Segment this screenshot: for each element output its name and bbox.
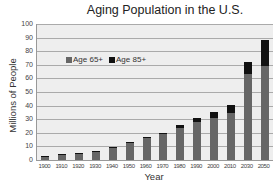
bar-2030 bbox=[244, 62, 252, 160]
bar-segment-age-65 bbox=[193, 122, 201, 160]
y-tick-label: 10 bbox=[0, 142, 33, 149]
bar-2010 bbox=[227, 105, 235, 160]
gridline bbox=[37, 133, 273, 134]
legend-swatch-icon bbox=[109, 57, 115, 63]
gridline bbox=[37, 65, 273, 66]
y-tick-label: 50 bbox=[0, 88, 33, 95]
y-tick-label: 20 bbox=[0, 129, 33, 136]
x-tick-label: 1920 bbox=[69, 163, 87, 169]
legend-item: Age 85+ bbox=[109, 55, 146, 64]
bar-segment-age-65 bbox=[210, 118, 218, 160]
gridline bbox=[37, 24, 273, 25]
gridline bbox=[37, 51, 273, 52]
legend-swatch-icon bbox=[66, 57, 72, 63]
bar-2050 bbox=[261, 40, 269, 160]
y-tick-label: 90 bbox=[0, 34, 33, 41]
x-tick-label: 1940 bbox=[103, 163, 121, 169]
gridline bbox=[37, 146, 273, 147]
bar-segment-age-85 bbox=[261, 40, 269, 66]
x-tick-label: 1980 bbox=[170, 163, 188, 169]
bar-segment-age-85 bbox=[210, 112, 218, 118]
bar-segment-age-85 bbox=[109, 147, 117, 148]
x-tick-label: 2000 bbox=[204, 163, 222, 169]
bar-segment-age-85 bbox=[176, 125, 184, 128]
bar-segment-age-65 bbox=[41, 156, 49, 160]
chart-title: Aging Population in the U.S. bbox=[60, 3, 270, 17]
gridline bbox=[37, 119, 273, 120]
legend-label: Age 65+ bbox=[73, 55, 103, 64]
legend-item: Age 65+ bbox=[66, 55, 103, 64]
bar-segment-age-65 bbox=[92, 151, 100, 160]
bar-segment-age-65 bbox=[227, 113, 235, 160]
bar-1930 bbox=[92, 151, 100, 160]
bar-1920 bbox=[75, 153, 83, 160]
bar-1900 bbox=[41, 156, 49, 160]
bar-1980 bbox=[176, 125, 184, 160]
bar-segment-age-65 bbox=[159, 134, 167, 160]
gridline bbox=[37, 38, 273, 39]
x-tick-label: 1950 bbox=[120, 163, 138, 169]
x-tick-label: 2050 bbox=[255, 163, 273, 169]
y-tick-label: 70 bbox=[0, 61, 33, 68]
bar-segment-age-85 bbox=[193, 118, 201, 122]
legend-label: Age 85+ bbox=[116, 55, 146, 64]
legend: Age 65+Age 85+ bbox=[66, 55, 146, 64]
x-tick-label: 1960 bbox=[137, 163, 155, 169]
plot-area bbox=[36, 24, 273, 161]
bar-segment-age-65 bbox=[58, 155, 66, 160]
bar-segment-age-85 bbox=[244, 62, 252, 74]
x-axis-label: Year bbox=[36, 171, 272, 182]
y-tick-label: 80 bbox=[0, 47, 33, 54]
x-tick-label: 2030 bbox=[238, 163, 256, 169]
bar-segment-age-85 bbox=[159, 133, 167, 135]
y-tick-label: 100 bbox=[0, 20, 33, 27]
bar-segment-age-85 bbox=[227, 105, 235, 112]
bar-1960 bbox=[143, 137, 151, 160]
y-tick-label: 30 bbox=[0, 115, 33, 122]
x-tick-label: 1930 bbox=[86, 163, 104, 169]
x-tick-label: 1900 bbox=[35, 163, 53, 169]
bar-1910 bbox=[58, 154, 66, 160]
bar-segment-age-65 bbox=[244, 74, 252, 160]
bar-segment-age-85 bbox=[143, 137, 151, 138]
bar-segment-age-65 bbox=[109, 148, 117, 160]
bar-1950 bbox=[126, 142, 134, 160]
bar-1940 bbox=[109, 147, 117, 160]
x-tick-label: 1910 bbox=[52, 163, 70, 169]
bar-segment-age-65 bbox=[176, 128, 184, 160]
bar-segment-age-65 bbox=[75, 153, 83, 160]
x-tick-label: 1990 bbox=[187, 163, 205, 169]
gridline bbox=[37, 106, 273, 107]
bar-2000 bbox=[210, 112, 218, 160]
y-tick-label: 0 bbox=[0, 156, 33, 163]
gridline bbox=[37, 78, 273, 79]
x-tick-label: 2010 bbox=[221, 163, 239, 169]
gridline bbox=[37, 92, 273, 93]
bar-1990 bbox=[193, 118, 201, 160]
bar-segment-age-65 bbox=[126, 143, 134, 160]
bar-segment-age-65 bbox=[261, 66, 269, 160]
bar-segment-age-65 bbox=[143, 138, 151, 160]
y-tick-label: 40 bbox=[0, 102, 33, 109]
bar-segment-age-85 bbox=[126, 142, 134, 143]
y-tick-label: 60 bbox=[0, 74, 33, 81]
x-tick-label: 1970 bbox=[153, 163, 171, 169]
bar-1970 bbox=[159, 133, 167, 160]
